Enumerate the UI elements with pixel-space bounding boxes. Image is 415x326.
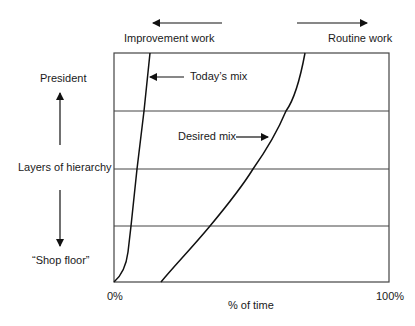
desired-mix-curve (161, 53, 305, 282)
desired-mix-label: Desired mix (178, 130, 236, 142)
hierarchy-label: Layers of hierarchy (18, 161, 112, 173)
x-max-label: 100% (376, 290, 404, 302)
routine-work-label: Routine work (328, 32, 392, 44)
x-axis-title: % of time (228, 299, 274, 311)
todays-mix-curve (114, 53, 150, 282)
president-label: President (40, 72, 86, 84)
shop-floor-label: “Shop floor” (32, 254, 89, 266)
x-min-label: 0% (107, 290, 123, 302)
improvement-work-label: Improvement work (124, 32, 214, 44)
todays-mix-label: Today’s mix (190, 70, 247, 82)
plot-frame (114, 53, 389, 282)
